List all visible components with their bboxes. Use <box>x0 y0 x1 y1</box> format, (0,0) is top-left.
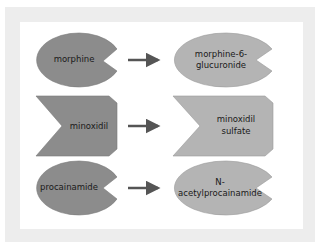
product-label-line1: morphine-6- <box>186 49 256 60</box>
diagram-shapes <box>0 0 321 247</box>
product-label-line1: minoxidil <box>203 114 269 125</box>
substrate-label-procainamide: procainamide <box>36 182 102 193</box>
substrate-label-minoxidil: minoxidil <box>64 121 114 132</box>
substrate-label-morphine: morphine <box>44 54 104 65</box>
product-label-line1: N- <box>175 177 265 188</box>
product-label-line2: acetylprocainamide <box>175 188 265 199</box>
product-label-line2: glucuronide <box>186 60 256 71</box>
product-label-line2: sulfate <box>203 126 269 137</box>
